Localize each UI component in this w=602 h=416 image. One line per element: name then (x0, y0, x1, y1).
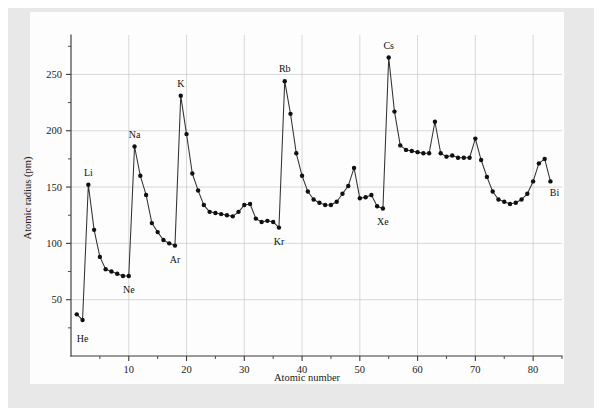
data-point (473, 136, 477, 140)
data-point (288, 112, 292, 116)
data-series-group (77, 58, 551, 320)
tick-marks-group (66, 46, 562, 361)
data-point (381, 206, 385, 210)
data-point (207, 210, 211, 214)
point-label-xe: Xe (377, 216, 389, 227)
data-point (86, 183, 90, 187)
data-point (98, 255, 102, 259)
data-point (311, 197, 315, 201)
data-point (485, 175, 489, 179)
data-point (80, 318, 84, 322)
point-label-ar: Ar (170, 254, 181, 265)
data-point (161, 238, 165, 242)
data-point (242, 203, 246, 207)
data-point (519, 197, 523, 201)
point-label-kr: Kr (274, 236, 285, 247)
y-tick-label: 50 (52, 294, 63, 305)
data-point (202, 203, 206, 207)
data-point (271, 220, 275, 224)
data-point (479, 158, 483, 162)
data-point (496, 197, 500, 201)
point-label-na: Na (129, 129, 141, 140)
data-point (375, 204, 379, 208)
point-label-cs: Cs (383, 40, 394, 51)
data-point (283, 79, 287, 83)
data-point (103, 267, 107, 271)
x-axis-title: Atomic number (274, 372, 341, 383)
data-point (248, 202, 252, 206)
data-point (236, 210, 240, 214)
data-point (219, 212, 223, 216)
data-point (415, 150, 419, 154)
data-point (190, 171, 194, 175)
data-point (369, 193, 373, 197)
data-point (352, 166, 356, 170)
data-point (427, 151, 431, 155)
data-polyline (77, 58, 551, 320)
data-point (306, 189, 310, 193)
x-tick-label: 80 (528, 364, 539, 375)
data-point (179, 94, 183, 98)
data-point (514, 201, 518, 205)
data-point (196, 188, 200, 192)
data-point (259, 220, 263, 224)
data-point (294, 151, 298, 155)
data-point (109, 269, 113, 273)
x-tick-label: 30 (239, 364, 250, 375)
data-point (525, 192, 529, 196)
data-point (167, 241, 171, 245)
x-tick-label: 20 (181, 364, 192, 375)
data-point (387, 55, 391, 59)
data-point (329, 203, 333, 207)
data-point (317, 201, 321, 205)
x-tick-label: 70 (470, 364, 481, 375)
data-point (490, 189, 494, 193)
data-point (277, 225, 281, 229)
data-point (127, 274, 131, 278)
data-point (213, 211, 217, 215)
data-point (184, 132, 188, 136)
data-point (173, 243, 177, 247)
x-tick-label: 50 (355, 364, 366, 375)
data-point (138, 174, 142, 178)
data-point (115, 272, 119, 276)
point-label-bi: Bi (550, 187, 560, 198)
y-tick-label: 100 (46, 238, 62, 249)
data-point (155, 230, 159, 234)
point-label-k: K (177, 78, 185, 89)
data-point (462, 156, 466, 160)
data-point (335, 199, 339, 203)
point-label-rb: Rb (279, 63, 291, 74)
y-tick-label: 250 (46, 69, 62, 80)
data-point (537, 161, 541, 165)
data-point (444, 154, 448, 158)
data-point (323, 203, 327, 207)
data-point (531, 179, 535, 183)
atomic-radius-line-chart: 102030405060708050100150200250 HeLiNeNaA… (0, 0, 602, 416)
data-point (340, 192, 344, 196)
point-label-ne: Ne (123, 284, 135, 295)
y-axis-title: Atomic radius (pm) (22, 156, 34, 239)
x-tick-label: 60 (412, 364, 423, 375)
data-point (265, 219, 269, 223)
data-point (542, 157, 546, 161)
data-point (363, 195, 367, 199)
data-point (358, 196, 362, 200)
point-label-li: Li (84, 167, 93, 178)
data-point (450, 153, 454, 157)
data-point (144, 193, 148, 197)
point-label-he: He (77, 333, 89, 344)
data-point (548, 179, 552, 183)
figure-page: 102030405060708050100150200250 HeLiNeNaA… (0, 0, 602, 416)
y-tick-label: 150 (46, 182, 62, 193)
x-tick-label: 10 (124, 364, 135, 375)
data-point (438, 151, 442, 155)
data-point (404, 148, 408, 152)
data-point (225, 213, 229, 217)
data-point (467, 156, 471, 160)
y-tick-label: 200 (46, 125, 62, 136)
data-point (502, 199, 506, 203)
data-point (456, 156, 460, 160)
data-point (410, 149, 414, 153)
data-point (231, 214, 235, 218)
